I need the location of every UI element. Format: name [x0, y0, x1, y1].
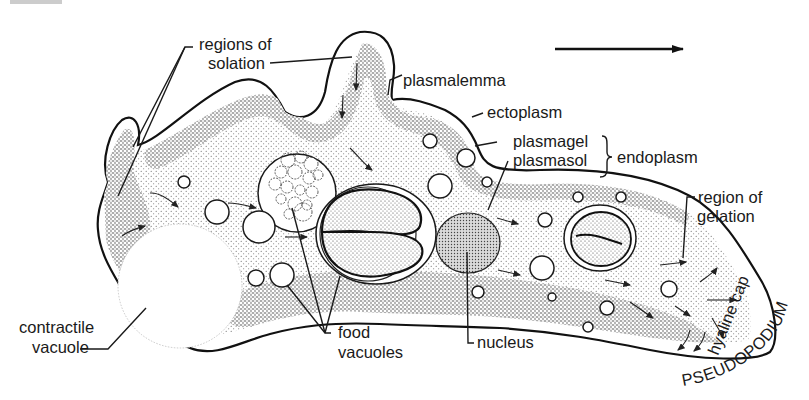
label-food-vacuoles-line2: vacuoles [338, 343, 403, 361]
food-vacuole-right [564, 205, 636, 271]
nucleus-shape [436, 213, 500, 273]
page-artifact [10, 0, 62, 4]
label-contractile-vacuole-line2: vacuole [32, 338, 89, 356]
label-plasmasol: plasmasol [513, 151, 587, 169]
label-contractile-vacuole-line1: contractile [19, 318, 94, 336]
food-vacuole-large [316, 184, 436, 284]
label-plasmagel: plasmagel [513, 132, 588, 150]
label-endoplasm: endoplasm [617, 148, 698, 166]
amoeba-diagram: regions of solation plasmalemma ectoplas… [0, 0, 809, 400]
label-ectoplasm: ectoplasm [487, 103, 562, 121]
label-food-vacuoles-line1: food [338, 323, 370, 341]
label-plasmalemma: plasmalemma [403, 71, 507, 89]
label-region-of-gelation-line1: region of [698, 188, 763, 206]
label-nucleus: nucleus [477, 333, 534, 351]
label-regions-of-solation-line1: regions of [199, 35, 272, 53]
contractile-vacuole [118, 224, 242, 348]
label-region-of-gelation-line2: gelation [697, 207, 755, 225]
label-regions-of-solation-line2: solation [208, 54, 265, 72]
